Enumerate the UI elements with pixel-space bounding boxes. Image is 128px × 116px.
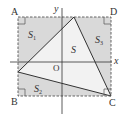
region-label-s1: S1: [28, 30, 36, 41]
region-label-s2: S2: [34, 84, 42, 95]
point-label-c: C: [109, 98, 116, 108]
point-label-b: B: [11, 97, 18, 107]
region-label-s3: S3: [95, 35, 103, 46]
origin-label: O: [53, 64, 60, 73]
x-axis-label: x: [114, 56, 118, 66]
point-label-a: A: [11, 7, 18, 17]
region-label-s: S: [71, 45, 76, 55]
y-axis-label: y: [54, 4, 58, 14]
point-label-d: D: [110, 7, 117, 17]
